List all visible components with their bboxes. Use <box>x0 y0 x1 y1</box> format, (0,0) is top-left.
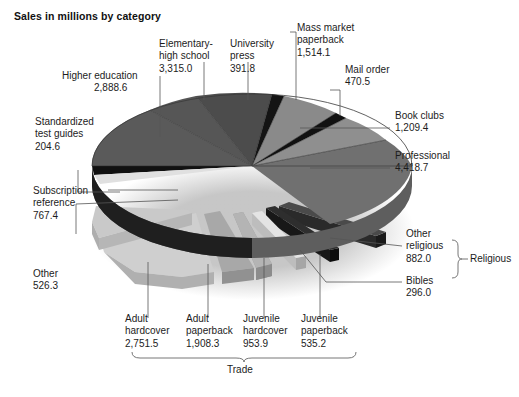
label-other: Other 526.3 <box>33 268 58 293</box>
trade-bracket <box>132 352 356 362</box>
label-juvenile-hardcover: Juvenile hardcover 953.9 <box>243 313 287 350</box>
label-standardized-test-guides: Standardized test guides 204.6 <box>35 116 94 153</box>
label-university-press: University press 391.8 <box>230 38 274 75</box>
label-adult-hardcover: Adult hardcover 2,751.5 <box>125 313 169 350</box>
label-bibles: Bibles 296.0 <box>406 275 433 300</box>
label-juvenile-paperback: Juvenile paperback 535.2 <box>301 313 348 350</box>
label-adult-paperback: Adult paperback 1,908.3 <box>186 313 233 350</box>
group-label-trade: Trade <box>227 364 253 375</box>
label-mass-market-paperback: Mass market paperback 1,514.1 <box>297 22 354 59</box>
label-mail-order: Mail order 470.5 <box>345 64 389 89</box>
label-book-clubs: Book clubs 1,209.4 <box>395 110 444 135</box>
chart-title: Sales in millions by category <box>14 10 161 22</box>
pie-chart-figure: Sales in millions by category Higher edu… <box>0 0 519 397</box>
group-label-religious: Religious <box>470 253 511 264</box>
label-elementary-high-school: Elementary- high school 3,315.0 <box>159 38 213 75</box>
religious-bracket <box>452 240 462 278</box>
label-higher-education: Higher education 2,888.6 <box>62 70 138 95</box>
label-subscription-reference: Subscription reference 767.4 <box>33 185 88 222</box>
label-professional: Professional 4,418.7 <box>395 150 450 175</box>
label-other-religious: Other religious 882.0 <box>406 228 443 265</box>
